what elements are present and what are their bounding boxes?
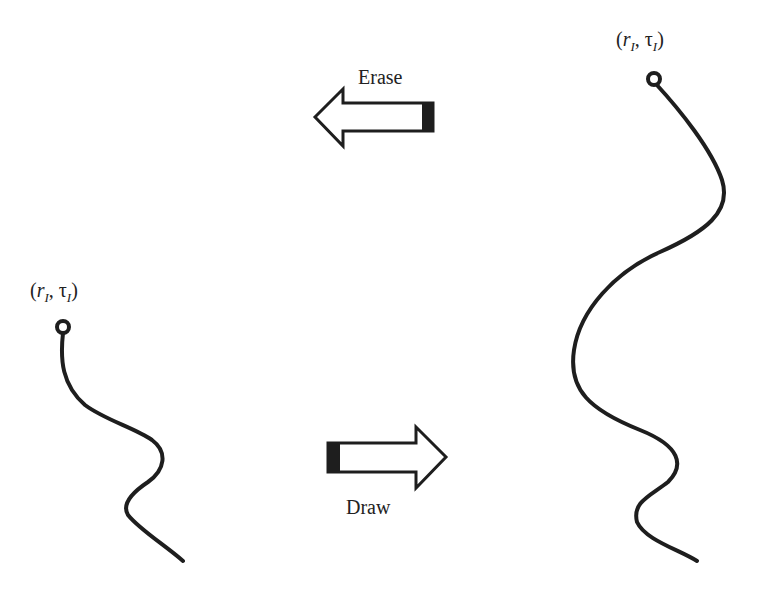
left-path-start-point bbox=[57, 321, 69, 333]
draw-label: Draw bbox=[346, 496, 391, 518]
erase-label: Erase bbox=[358, 66, 403, 88]
draw-arrow bbox=[327, 427, 446, 488]
left-path-curve bbox=[62, 333, 183, 561]
right-path-curve bbox=[573, 84, 724, 561]
erase-arrow-cap bbox=[422, 102, 434, 132]
draw-arrow-cap bbox=[327, 442, 340, 473]
erase-arrow bbox=[315, 89, 434, 146]
erase-arrow-outline bbox=[315, 89, 433, 146]
right-path-label: (rI, τI) bbox=[616, 28, 664, 54]
draw-arrow-outline bbox=[328, 427, 446, 488]
diagram-canvas: (rI, τI) (rI, τI) Erase Draw bbox=[0, 0, 759, 595]
right-path-start-point bbox=[648, 73, 660, 85]
left-path-label: (rI, τI) bbox=[30, 279, 78, 305]
